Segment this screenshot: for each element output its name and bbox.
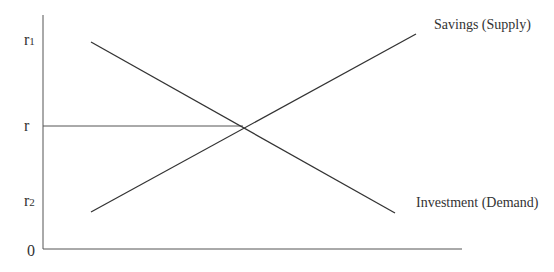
- supply-curve-label: Savings (Supply): [434, 17, 531, 33]
- loanable-funds-diagram: r1 r r2 0 Savings (Supply) Investment (D…: [0, 0, 554, 272]
- savings-supply-curve: [91, 34, 416, 212]
- demand-curve-label: Investment (Demand): [416, 195, 539, 211]
- tick-label-r1: r1: [24, 31, 35, 48]
- tick-label-origin: 0: [27, 242, 35, 259]
- tick-label-r2: r2: [24, 192, 35, 209]
- tick-label-r: r: [24, 117, 30, 134]
